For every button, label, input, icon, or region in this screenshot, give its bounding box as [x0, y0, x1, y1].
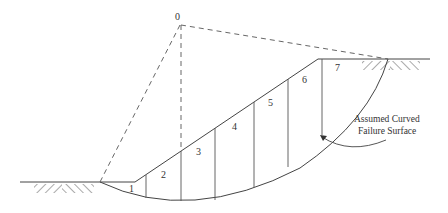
slice-label-1: 1 — [129, 183, 134, 194]
failure-arc — [100, 59, 388, 200]
slice-label-3: 3 — [196, 146, 201, 157]
center-label: 0 — [175, 11, 180, 22]
annotation-line2: Failure Surface — [358, 126, 416, 136]
slice-label-6: 6 — [302, 74, 307, 85]
slice-label-7: 7 — [335, 62, 340, 73]
slope-face — [135, 59, 318, 182]
slice-label-4: 4 — [232, 121, 237, 132]
slice-label-2: 2 — [161, 169, 166, 180]
ground-left — [20, 182, 135, 193]
slice-label-5: 5 — [268, 97, 273, 108]
arrowhead-icon — [320, 135, 327, 141]
radius-lines — [100, 25, 388, 182]
annotation-line1: Assumed Curved — [354, 114, 420, 124]
annotation-arrow — [322, 137, 386, 147]
slope-stability-diagram: 0 1 2 3 4 5 6 7 Assumed Curved Failure S… — [0, 0, 448, 213]
